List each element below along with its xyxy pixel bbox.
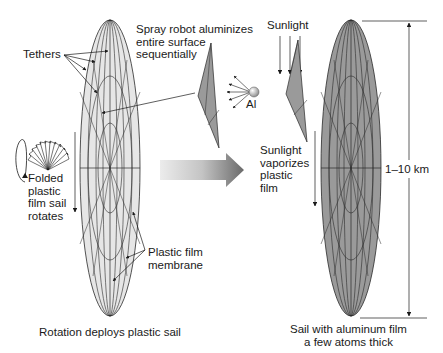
aluminum-atom-icon — [249, 87, 259, 97]
dimension-label: 1–10 km — [384, 163, 430, 176]
aluminized-sail — [321, 20, 381, 316]
folded-sail-label: Folded plastic film sail rotates — [28, 172, 66, 222]
process-right-arrow-icon — [160, 153, 244, 187]
rotation-arrow-icon — [16, 140, 28, 182]
folded-sail-fan — [28, 141, 69, 170]
aluminum-symbol-label: Al — [246, 98, 256, 111]
plastic-sail — [80, 20, 140, 316]
sunlight-label: Sunlight — [267, 19, 309, 32]
spray-robot-label: Spray robot aluminizes entire surface se… — [136, 23, 253, 61]
caption-left: Rotation deploys plastic sail — [39, 326, 181, 339]
sunlight-vaporizes-label: Sunlight vaporizes plastic film — [260, 144, 309, 194]
plastic-membrane-label: Plastic film membrane — [148, 246, 203, 271]
tethers-label: Tethers — [23, 48, 61, 61]
vaporizing-panel — [286, 40, 307, 142]
caption-right: Sail with aluminum film a few atoms thic… — [290, 323, 407, 348]
